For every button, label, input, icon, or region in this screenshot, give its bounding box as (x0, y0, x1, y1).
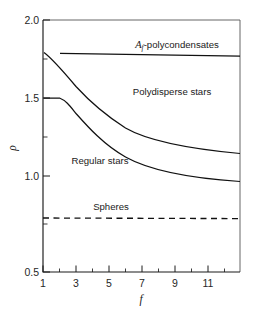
x-tick-label-7: 7 (139, 277, 145, 289)
chart-svg: 2.0 1.5 1.0 0.5 1 3 5 7 9 11 ρ f Af-poly… (0, 0, 257, 309)
annotation-regular-stars: Regular stars (71, 155, 128, 166)
plot-area-background (43, 20, 240, 272)
y-tick-label-2-0: 2.0 (24, 14, 39, 26)
annotation-spheres: Spheres (93, 201, 129, 212)
x-tick-label-5: 5 (106, 277, 112, 289)
y-axis-title: ρ (6, 145, 19, 152)
x-tick-label-3: 3 (73, 277, 79, 289)
x-axis-title: f (139, 293, 144, 306)
y-tick-label-1-5: 1.5 (24, 92, 39, 104)
chart-figure: 2.0 1.5 1.0 0.5 1 3 5 7 9 11 ρ f Af-poly… (0, 0, 257, 309)
y-tick-label-1-0: 1.0 (24, 170, 39, 182)
x-tick-label-1: 1 (40, 277, 46, 289)
annotation-af-tail: -polycondensates (144, 39, 219, 50)
annotation-polydisperse-stars: Polydisperse stars (133, 86, 212, 97)
x-tick-label-11: 11 (203, 277, 214, 289)
y-tick-label-0-5: 0.5 (24, 266, 39, 278)
x-tick-label-9: 9 (172, 277, 178, 289)
